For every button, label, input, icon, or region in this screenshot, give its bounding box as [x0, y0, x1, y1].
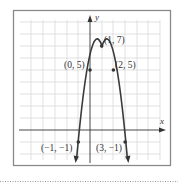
point-neg1-neg1	[77, 140, 81, 144]
label-0-5: (0, 5)	[64, 60, 85, 71]
y-axis-label: y	[94, 12, 99, 22]
point-vertex	[100, 44, 104, 48]
point-3-neg1	[123, 140, 127, 144]
label-vertex: (1, 7)	[104, 35, 125, 46]
label-2-5: (2, 5)	[115, 60, 136, 71]
x-axis-label: x	[159, 116, 164, 126]
label-3-neg1: (3, −1)	[96, 143, 122, 154]
parabola-graph: x y (1, 7) (0, 5) (2, 5) (−1, −1) (3, −1…	[0, 0, 178, 186]
point-0-5	[88, 68, 92, 72]
label-neg1-neg1: (−1, −1)	[41, 143, 72, 154]
